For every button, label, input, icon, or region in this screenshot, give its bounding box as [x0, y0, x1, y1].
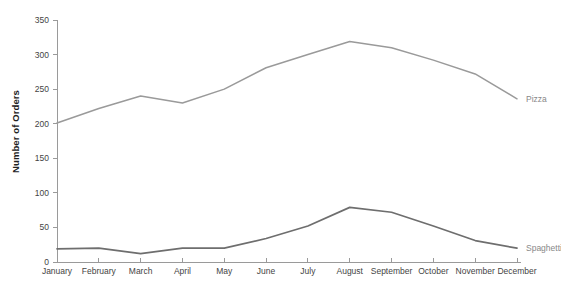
x-tick-label: March [129, 266, 153, 276]
y-tick-label: 200 [35, 119, 49, 129]
y-tick-label: 50 [40, 222, 50, 232]
x-tick-label: May [216, 266, 233, 276]
y-tick-label: 100 [35, 188, 49, 198]
x-tick-label: April [174, 266, 191, 276]
x-tick-label: September [371, 266, 413, 276]
x-tick-label: June [257, 266, 276, 276]
series-label-spaghetti: Spaghetti [526, 243, 561, 253]
y-axis: 050100150200250300350 [35, 15, 57, 267]
x-tick-label: November [456, 266, 495, 276]
series-labels: PizzaSpaghetti [526, 94, 561, 253]
y-tick-label: 250 [35, 84, 49, 94]
x-tick-label: July [300, 266, 316, 276]
x-tick-label: February [82, 266, 117, 276]
y-tick-label: 350 [35, 15, 49, 25]
y-tick-label: 150 [35, 153, 49, 163]
series-lines [57, 41, 517, 253]
x-tick-label: January [42, 266, 73, 276]
plot-area: 050100150200250300350 JanuaryFebruaryMar… [0, 0, 561, 288]
series-line-pizza [57, 41, 517, 123]
line-chart: Number of Orders 050100150200250300350 J… [0, 0, 561, 288]
x-axis: JanuaryFebruaryMarchAprilMayJuneJulyAugu… [42, 258, 537, 276]
y-tick-label: 300 [35, 50, 49, 60]
x-tick-label: October [418, 266, 448, 276]
series-label-pizza: Pizza [526, 94, 547, 104]
series-line-spaghetti [57, 207, 517, 253]
x-tick-label: August [336, 266, 363, 276]
x-tick-label: December [497, 266, 536, 276]
